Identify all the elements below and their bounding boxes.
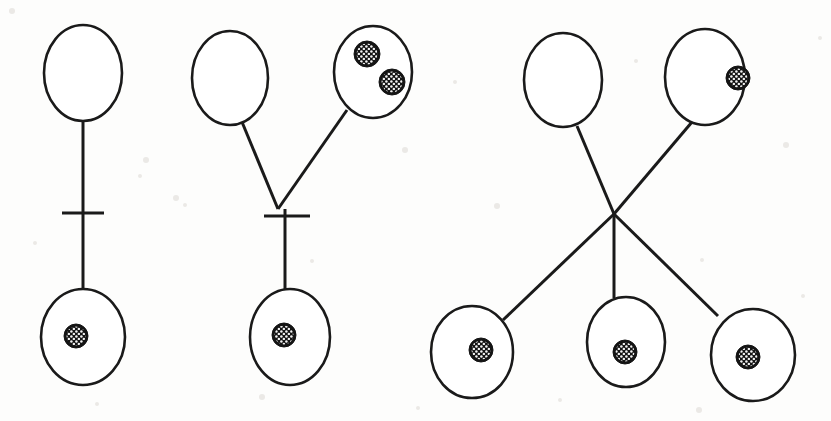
scan-speck (801, 294, 805, 298)
nucleus (726, 66, 750, 90)
scan-speck (453, 80, 457, 84)
scan-speck (402, 147, 408, 153)
scan-speck (9, 8, 15, 14)
nucleus (469, 338, 493, 362)
scan-speck (634, 59, 638, 63)
nucleus (354, 41, 380, 67)
upper-left-cell[interactable] (524, 33, 602, 127)
nucleus (272, 323, 296, 347)
cell-division-figure (0, 0, 831, 421)
scan-speck (95, 402, 99, 406)
nucleus (613, 340, 637, 364)
scan-speck (696, 407, 702, 413)
scan-speck (558, 398, 562, 402)
scan-speck (259, 394, 265, 400)
nucleus (379, 69, 405, 95)
upper-cell[interactable] (44, 25, 122, 121)
nucleus (736, 345, 760, 369)
scan-speck (33, 241, 37, 245)
scan-speck (416, 406, 420, 410)
scan-speck (173, 195, 179, 201)
scan-speck (494, 203, 500, 209)
figure-canvas (0, 0, 831, 421)
upper-left-cell[interactable] (192, 31, 268, 125)
scan-speck (183, 203, 187, 207)
scan-speck (143, 157, 149, 163)
scan-speck (310, 259, 314, 263)
scan-speck (700, 258, 704, 262)
scan-speck (138, 174, 142, 178)
scan-speck (818, 36, 822, 40)
scan-speck (783, 142, 789, 148)
nucleus (64, 324, 88, 348)
